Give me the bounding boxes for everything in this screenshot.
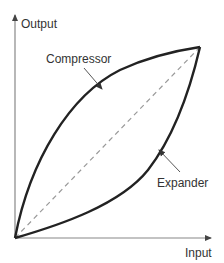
compander-diagram: Output Input Compressor Expander bbox=[0, 0, 224, 263]
expander-callout-arrow bbox=[159, 150, 180, 172]
compressor-callout-arrow bbox=[84, 68, 102, 89]
y-axis-label: Output bbox=[21, 17, 58, 31]
linear-reference-line bbox=[15, 47, 200, 238]
x-axis-label: Input bbox=[185, 246, 212, 260]
compressor-label: Compressor bbox=[46, 52, 111, 66]
expander-label: Expander bbox=[157, 176, 208, 190]
axes bbox=[15, 15, 211, 238]
